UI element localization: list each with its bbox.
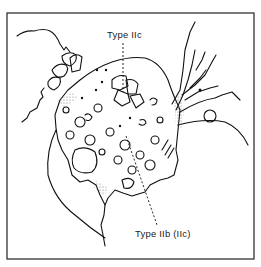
dot <box>101 81 103 83</box>
nodule-1 <box>52 64 68 77</box>
label-type-iic: Type IIc <box>107 29 142 40</box>
areae-8 <box>151 136 159 144</box>
irregular-contour-1 <box>85 114 92 121</box>
areae-1 <box>94 104 102 112</box>
areae-3 <box>66 131 74 139</box>
dot <box>119 125 121 127</box>
fold-line-top-left <box>17 30 70 53</box>
fold-line-bottom <box>101 205 105 246</box>
areae-6 <box>120 140 130 150</box>
stipple-zone-right <box>174 92 184 128</box>
areae-13 <box>99 149 105 155</box>
dot <box>95 89 97 91</box>
areae-7 <box>136 151 144 159</box>
areae-10 <box>128 166 136 174</box>
irregular-contour-3 <box>150 98 157 105</box>
stipple-zone-bottom <box>94 180 108 196</box>
label-type-iib-iic: Type IIb (IIc) <box>135 228 191 239</box>
vessel-branch-4 <box>190 70 206 88</box>
areae-14 <box>63 107 69 113</box>
nodule-3 <box>48 77 61 90</box>
lesion-diagram <box>0 0 261 267</box>
dot <box>105 69 107 71</box>
outer-boundary-right <box>178 121 248 145</box>
dot <box>81 97 83 99</box>
areae-12 <box>157 117 163 123</box>
nodule-large <box>72 148 97 173</box>
dot <box>96 69 98 71</box>
iic-cell-1 <box>112 76 128 91</box>
iic-cell-4 <box>130 94 144 108</box>
nodule-small <box>122 178 134 188</box>
leader-line-bottom <box>126 136 157 225</box>
fold-line-upper-right <box>172 22 195 104</box>
vessel-branch-5 <box>196 52 205 70</box>
striations <box>162 140 174 158</box>
areae-4 <box>85 135 95 145</box>
iic-cell-2 <box>126 80 138 95</box>
areae-9 <box>145 160 155 170</box>
dot <box>199 89 202 92</box>
areae-5 <box>106 128 114 136</box>
stipple-zone-left <box>58 92 78 108</box>
lesion-outline <box>55 58 180 206</box>
areae-11 <box>114 156 122 164</box>
areae-2 <box>75 117 85 127</box>
fold-line-right <box>180 92 240 112</box>
dot <box>129 117 131 119</box>
frame-border <box>7 13 254 259</box>
irregular-contour-2 <box>139 119 146 125</box>
fold-line-left <box>22 88 44 122</box>
diagram-canvas <box>0 0 261 267</box>
